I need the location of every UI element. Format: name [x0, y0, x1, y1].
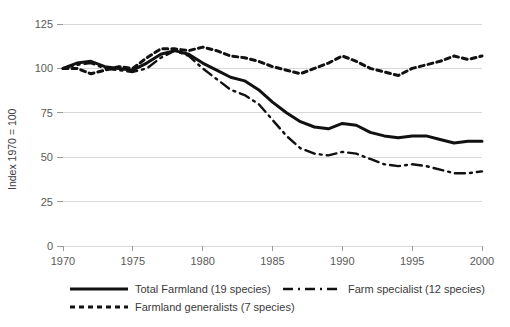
series-lines: [63, 47, 482, 173]
legend-label-total-farmland: Total Farmland (19 species): [135, 283, 271, 295]
legend-label-farm-specialist: Farm specialist (12 species): [348, 283, 485, 295]
legend: Total Farmland (19 species) Farm special…: [70, 283, 485, 313]
series-line-2: [63, 47, 482, 75]
y-tick-label-25: 25: [41, 196, 53, 208]
x-tick-label-1990: 1990: [330, 255, 354, 267]
x-tick-label-1985: 1985: [260, 255, 284, 267]
y-axis-title: Index 1970 = 100: [6, 108, 18, 190]
y-tick-label-0: 0: [47, 240, 53, 252]
x-tick-label-1970: 1970: [51, 255, 75, 267]
y-axis-tick-labels: 0255075100125: [35, 18, 53, 252]
x-tick-label-1975: 1975: [121, 255, 145, 267]
y-axis-tick-marks: [57, 24, 63, 246]
x-tick-label-2000: 2000: [470, 255, 494, 267]
legend-label-farmland-generalists: Farmland generalists (7 species): [135, 301, 295, 313]
x-axis-tick-labels: 1970197519801985199019952000: [51, 255, 494, 267]
farmland-bird-index-line-chart: 0255075100125 19701975198019851990199520…: [0, 0, 510, 327]
y-tick-label-125: 125: [35, 18, 53, 30]
x-tick-label-1980: 1980: [190, 255, 214, 267]
y-tick-label-75: 75: [41, 107, 53, 119]
x-tick-label-1995: 1995: [400, 255, 424, 267]
y-tick-label-50: 50: [41, 151, 53, 163]
y-tick-label-100: 100: [35, 62, 53, 74]
chart-container: 0255075100125 19701975198019851990199520…: [0, 0, 510, 327]
series-line-0: [63, 51, 482, 143]
x-axis-tick-marks: [63, 246, 482, 251]
